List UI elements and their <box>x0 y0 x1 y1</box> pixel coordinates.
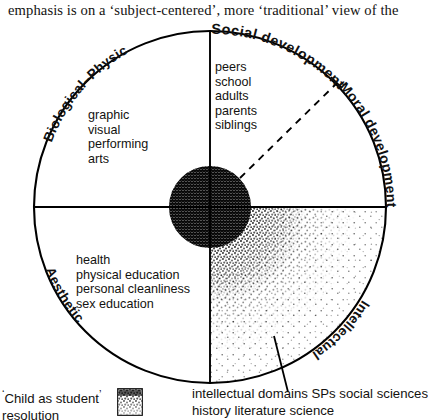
list-item: sex education <box>76 297 190 312</box>
arc-label-moral-development: Moral development <box>336 79 399 208</box>
stipple-density-swatch <box>117 388 143 416</box>
list-item: adults <box>215 89 257 104</box>
arc-label-moral-development-text: Moral development <box>336 79 399 208</box>
close-quote-mark: ’ <box>99 388 101 400</box>
list-item: school <box>215 75 257 90</box>
list-item: personal cleanliness <box>76 282 190 297</box>
list-item: siblings <box>215 118 257 133</box>
caption-intellectual-domains: intellectual domains SPs social sciences… <box>192 386 428 419</box>
list-item: health <box>76 253 190 268</box>
list-item: arts <box>88 152 148 167</box>
swatch-top-dark-band <box>118 389 141 396</box>
list-item: physical education <box>76 268 190 283</box>
list-item: parents <box>215 104 257 119</box>
quadrant-list-biological-physical: health physical education personal clean… <box>76 253 190 311</box>
list-item: peers <box>215 60 257 75</box>
quadrant-list-aesthetic: graphic visual performing arts <box>88 108 148 166</box>
caption-right-line2: history literature science <box>192 403 428 420</box>
caption-left-line2: resolution <box>2 408 101 420</box>
list-item: visual <box>88 123 148 138</box>
diagram-figure: Social development Moral development Int… <box>0 0 428 420</box>
wheel-diagram-svg: Social development Moral development Int… <box>0 0 428 420</box>
list-item: graphic <box>88 108 148 123</box>
caption-right-line1: intellectual domains SPs social sciences <box>192 386 428 403</box>
list-item: performing <box>88 137 148 152</box>
caption-left-line1-text: Child as student <box>4 391 99 406</box>
caption-left-line1: ‘Child as student’ <box>2 386 101 408</box>
caption-child-as-student: ‘Child as student’ resolution <box>2 386 101 420</box>
quadrant-list-social-development: peers school adults parents siblings <box>215 60 257 133</box>
